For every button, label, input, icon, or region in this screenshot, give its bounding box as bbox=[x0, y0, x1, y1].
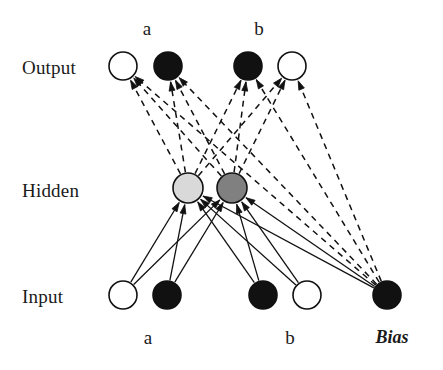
edge-hid-1-to-out-3 bbox=[195, 80, 241, 173]
edge-in-3-to-hid-1 bbox=[198, 202, 255, 283]
arrowhead-in-5-to-out-4 bbox=[298, 81, 304, 90]
arrowhead-in-5-to-hid-2 bbox=[246, 198, 255, 206]
arrowhead-hid-1-to-out-2 bbox=[169, 82, 175, 91]
arrowhead-hid-2-to-out-3 bbox=[242, 82, 248, 91]
input-to-hidden-edges bbox=[131, 196, 375, 288]
hidden-to-output-edges bbox=[131, 76, 382, 285]
node-in-2[interactable] bbox=[153, 281, 181, 309]
node-out-1[interactable] bbox=[109, 52, 137, 80]
node-hid-2[interactable] bbox=[217, 173, 247, 203]
node-out-2[interactable] bbox=[154, 52, 182, 80]
arrowhead-hid-1-to-out-3 bbox=[234, 80, 241, 89]
input-node-label-b: b bbox=[285, 327, 295, 349]
node-out-3[interactable] bbox=[234, 52, 262, 80]
node-in-1[interactable] bbox=[109, 281, 137, 309]
node-out-4[interactable] bbox=[278, 52, 306, 80]
edge-hid-2-to-out-3 bbox=[234, 82, 246, 172]
edge-in-5-to-out-3 bbox=[256, 80, 379, 283]
edge-hid-2-to-out-4 bbox=[239, 80, 285, 173]
layer-label-output: Output bbox=[22, 57, 76, 79]
arrowhead-in-1-to-hid-1 bbox=[172, 203, 179, 212]
node-in-3[interactable] bbox=[249, 281, 277, 309]
arrowhead-in-3-to-hid-2 bbox=[236, 204, 242, 213]
input-node-label-bias: Bias bbox=[375, 327, 408, 348]
arrowhead-in-2-to-hid-1 bbox=[180, 205, 186, 214]
output-node-label-a: a bbox=[143, 18, 151, 40]
edge-in-2-to-hid-2 bbox=[175, 203, 223, 283]
node-in-4[interactable] bbox=[293, 281, 321, 309]
layer-label-input: Input bbox=[22, 286, 63, 308]
input-node-label-a: a bbox=[144, 327, 152, 349]
output-node-label-b: b bbox=[254, 18, 264, 40]
layer-label-hidden: Hidden bbox=[22, 180, 79, 202]
node-hid-1[interactable] bbox=[173, 173, 203, 203]
arrowhead-in-5-to-out-3 bbox=[256, 80, 263, 89]
arrowhead-in-4-to-hid-2 bbox=[242, 202, 250, 211]
edge-in-5-to-out-4 bbox=[298, 81, 381, 281]
edge-in-5-to-out-1 bbox=[135, 76, 376, 285]
node-in-5[interactable] bbox=[373, 281, 401, 309]
neural-network-diagram: Output Hidden Input a b a b Bias bbox=[0, 0, 443, 370]
